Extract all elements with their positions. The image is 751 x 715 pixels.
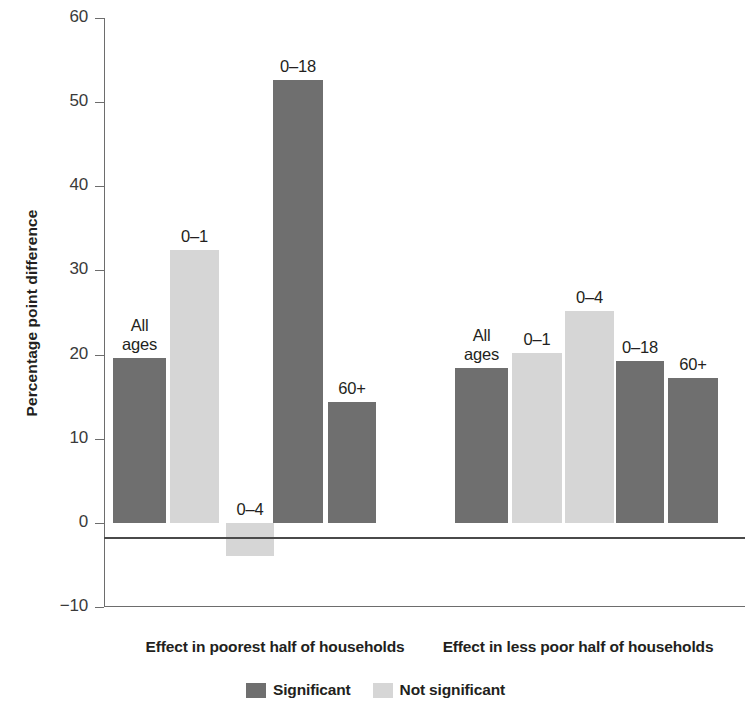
y-tick-label: 0 xyxy=(22,512,88,532)
y-tick-mark xyxy=(95,607,104,608)
bar-category-label: 60+ xyxy=(310,379,394,398)
bar xyxy=(616,361,664,523)
y-tick-mark xyxy=(95,270,104,271)
y-tick-mark xyxy=(95,102,104,103)
y-tick-label: 20 xyxy=(22,344,88,364)
y-tick-mark xyxy=(95,355,104,356)
zero-baseline xyxy=(104,537,745,539)
group-caption: Effect in less poor half of households xyxy=(405,638,751,656)
bar-chart-figure: Percentage point difference 605040302010… xyxy=(0,0,751,715)
legend-label: Significant xyxy=(273,681,351,699)
legend-label: Not significant xyxy=(400,681,505,699)
bar xyxy=(226,523,274,556)
y-tick-label: 10 xyxy=(22,428,88,448)
legend-swatch-icon xyxy=(246,683,266,698)
bar xyxy=(455,368,508,523)
y-tick-label: −10 xyxy=(22,596,88,616)
bar xyxy=(328,402,376,523)
bar-category-label: 60+ xyxy=(650,355,736,374)
y-tick-label: 40 xyxy=(22,175,88,195)
bar-category-label: 0–4 xyxy=(547,288,632,307)
y-axis-title: Percentage point difference xyxy=(23,163,41,463)
bar xyxy=(273,80,323,523)
legend-item: Not significant xyxy=(373,681,505,699)
legend-swatch-icon xyxy=(373,683,393,698)
bar xyxy=(512,353,562,523)
chart-legend: SignificantNot significant xyxy=(0,681,751,699)
y-tick-mark xyxy=(95,186,104,187)
y-tick-label: 60 xyxy=(22,7,88,27)
y-tick-label: 30 xyxy=(22,259,88,279)
bar xyxy=(113,358,166,523)
plot-area: All ages0–10–40–1860+All ages0–10–40–186… xyxy=(104,18,745,607)
y-tick-mark xyxy=(95,523,104,524)
legend-item: Significant xyxy=(246,681,351,699)
y-tick-mark xyxy=(95,439,104,440)
y-tick-mark xyxy=(95,18,104,19)
bar xyxy=(170,250,219,523)
bar-category-label: 0–18 xyxy=(255,57,341,76)
bar xyxy=(668,378,718,523)
bar-category-label: 0–1 xyxy=(152,227,237,246)
y-tick-label: 50 xyxy=(22,91,88,111)
